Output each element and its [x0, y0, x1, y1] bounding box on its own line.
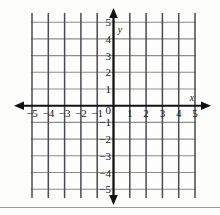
y-tick-label: 4 — [106, 33, 112, 45]
x-tick-label: 5 — [192, 107, 198, 119]
x-tick-label: −5 — [26, 107, 38, 119]
x-tick-label: 1 — [127, 107, 133, 119]
y-tick-label: −4 — [99, 167, 111, 179]
origin-label: 0 — [106, 104, 112, 116]
y-axis-arrow-down — [109, 195, 118, 205]
x-tick-label: −4 — [42, 107, 54, 119]
y-tick-label: −2 — [99, 133, 111, 145]
x-tick-label: 3 — [160, 107, 166, 119]
y-tick-label: −3 — [99, 150, 111, 162]
x-axis-arrow-left — [14, 101, 24, 110]
x-tick-label: −3 — [59, 107, 71, 119]
x-tick-label: 2 — [143, 107, 149, 119]
y-axis-name: y — [117, 24, 123, 35]
x-axis-arrow-right — [201, 101, 211, 110]
coordinate-plane-figure: −5 −4 −3 −2 −1 1 2 3 4 5 5 4 3 2 1 −1 −2… — [0, 0, 220, 215]
coordinate-plane-svg: −5 −4 −3 −2 −1 1 2 3 4 5 5 4 3 2 1 −1 −2… — [0, 0, 220, 215]
y-tick-label: −5 — [99, 183, 111, 195]
y-tick-label: 2 — [106, 66, 112, 78]
x-tick-label: −2 — [75, 107, 87, 119]
y-tick-label: 3 — [106, 50, 112, 62]
y-tick-label: 5 — [106, 16, 112, 28]
x-tick-label: 4 — [176, 107, 182, 119]
x-tick-labels: −5 −4 −3 −2 −1 1 2 3 4 5 — [26, 107, 198, 119]
y-tick-label: 1 — [106, 83, 112, 95]
y-tick-label: −1 — [99, 116, 111, 128]
x-axis-name: x — [189, 92, 195, 103]
